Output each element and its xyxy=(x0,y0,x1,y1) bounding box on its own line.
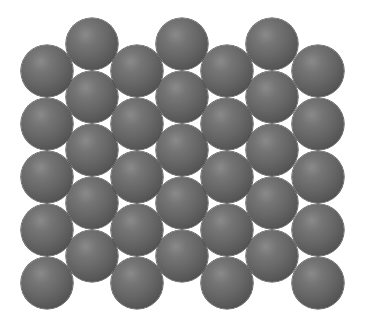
sphere xyxy=(21,257,73,309)
sphere xyxy=(292,204,344,256)
sphere xyxy=(201,45,253,97)
sphere-packing-diagram xyxy=(0,0,365,332)
sphere xyxy=(292,98,344,150)
sphere xyxy=(246,71,298,123)
sphere xyxy=(156,124,208,176)
sphere xyxy=(66,177,118,229)
sphere xyxy=(111,98,163,150)
sphere xyxy=(21,98,73,150)
sphere xyxy=(201,204,253,256)
sphere xyxy=(201,257,253,309)
sphere xyxy=(246,177,298,229)
sphere xyxy=(292,151,344,203)
sphere xyxy=(156,18,208,70)
sphere xyxy=(201,98,253,150)
sphere xyxy=(111,257,163,309)
sphere xyxy=(292,257,344,309)
sphere xyxy=(66,124,118,176)
sphere xyxy=(21,151,73,203)
sphere xyxy=(21,204,73,256)
sphere xyxy=(246,18,298,70)
sphere xyxy=(66,18,118,70)
sphere xyxy=(21,45,73,97)
sphere xyxy=(111,204,163,256)
sphere xyxy=(66,230,118,282)
sphere xyxy=(66,71,118,123)
sphere xyxy=(201,151,253,203)
sphere xyxy=(111,151,163,203)
sphere xyxy=(156,71,208,123)
sphere xyxy=(246,124,298,176)
sphere xyxy=(111,45,163,97)
sphere xyxy=(292,45,344,97)
sphere xyxy=(246,230,298,282)
sphere xyxy=(156,230,208,282)
sphere xyxy=(156,177,208,229)
